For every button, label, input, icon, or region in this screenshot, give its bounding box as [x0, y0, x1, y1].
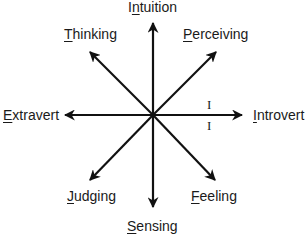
label-thinking-rest: hinking — [73, 26, 117, 42]
label-sensing-rest: ensing — [136, 218, 177, 234]
label-feeling: Feeling — [191, 188, 237, 204]
arrow-feeling — [153, 115, 215, 180]
arrow-thinking — [90, 52, 153, 115]
arrow-judging — [90, 115, 153, 180]
label-introvert: Introvert — [253, 107, 304, 123]
label-thinking: Thinking — [64, 26, 117, 42]
label-extravert: Extravert — [3, 107, 59, 123]
label-extravert-rest: xtravert — [12, 107, 59, 123]
label-intuition-rest: tuition — [140, 0, 177, 15]
label-intuition-accel: n — [132, 0, 140, 15]
label-perceiving-accel: P — [183, 26, 192, 42]
introvert-mark-bottom: I — [207, 119, 211, 132]
label-sensing: Sensing — [127, 218, 178, 234]
label-feeling-rest: eeling — [200, 188, 237, 204]
introvert-mark-top: I — [207, 98, 211, 111]
mbti-axes-diagram: Intuition Thinking Perceiving Extravert … — [0, 0, 308, 239]
label-perceiving: Perceiving — [183, 26, 248, 42]
label-intuition: Intuition — [128, 0, 177, 15]
label-judging: Judging — [67, 188, 116, 204]
label-extravert-accel: E — [3, 107, 12, 123]
label-perceiving-rest: erceiving — [192, 26, 248, 42]
label-feeling-accel: F — [191, 188, 200, 204]
label-sensing-accel: S — [127, 218, 136, 234]
label-judging-accel: J — [67, 188, 74, 204]
label-judging-rest: udging — [74, 188, 116, 204]
label-thinking-accel: T — [64, 26, 73, 42]
label-introvert-rest: ntrovert — [257, 107, 304, 123]
